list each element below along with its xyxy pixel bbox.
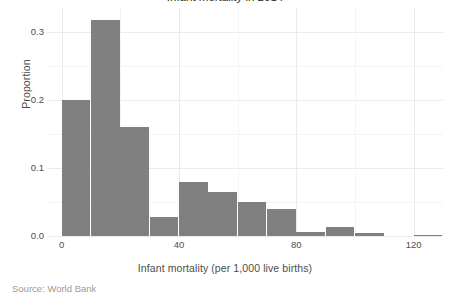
histogram-bar — [296, 232, 325, 236]
gridline-vertical — [296, 8, 297, 236]
chart-caption: Source: World Bank — [12, 283, 442, 295]
y-tick-label: 0.3 — [4, 26, 44, 37]
histogram-bar — [238, 202, 267, 236]
histogram-bar — [326, 227, 355, 236]
x-tick-label: 80 — [276, 239, 316, 250]
x-tick-label: 0 — [42, 239, 82, 250]
x-tick-label: 40 — [159, 239, 199, 250]
histogram-bar — [355, 233, 384, 236]
plot-panel — [47, 8, 443, 236]
histogram-bar — [91, 20, 120, 236]
histogram-bar — [208, 192, 237, 236]
histogram-bar — [267, 209, 296, 236]
x-axis-title: Infant mortality (per 1,000 live births) — [0, 262, 450, 274]
histogram-bar — [62, 100, 91, 236]
y-tick-label: 0.0 — [4, 230, 44, 241]
gridline-vertical-minor — [355, 8, 356, 236]
chart-title: Infant mortality in 2014 — [0, 0, 450, 5]
histogram-bar — [414, 235, 443, 236]
gridline-horizontal — [47, 236, 443, 237]
histogram-bar — [179, 182, 208, 236]
x-tick-label: 120 — [394, 239, 434, 250]
y-tick-label: 0.1 — [4, 162, 44, 173]
gridline-vertical — [414, 8, 415, 236]
histogram-bar — [150, 217, 179, 236]
y-tick-label: 0.2 — [4, 94, 44, 105]
histogram-bar — [120, 127, 149, 236]
